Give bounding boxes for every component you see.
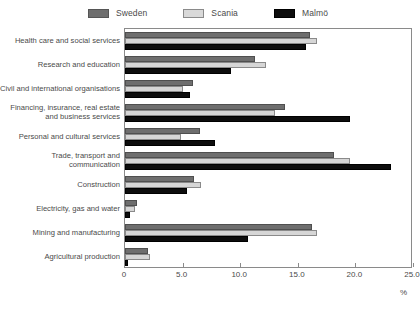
bar-malmo [125,116,350,122]
legend-label-sweden: Sweden [116,8,147,18]
bar-malmo [125,188,187,194]
bar-scania [125,230,317,236]
category-label: Mining and manufacturing [0,228,120,237]
bar-scania [125,62,266,68]
bar-scania [125,254,150,260]
bar-malmo [125,68,231,74]
legend-item-malmo: Malmö [274,8,328,18]
bar-malmo [125,44,306,50]
legend-label-malmo: Malmö [302,8,328,18]
bar-scania [125,206,135,212]
chart-legend: SwedenScaniaMalmö [0,4,416,22]
legend-swatch-sweden [88,9,109,18]
category-label: Civil and international organisations [0,84,120,93]
bar-group [125,101,411,125]
axis-tick-label: 20.0 [347,270,363,279]
axis-tick-label: 0 [122,270,126,279]
bar-scania [125,134,181,140]
axis-tick-label: 25.0 [404,270,420,279]
bar-sweden [125,104,285,110]
bar-scania [125,86,183,92]
bar-group [125,245,411,269]
bar-group [125,53,411,77]
legend-item-scania: Scania [183,8,238,18]
bar-sweden [125,152,334,158]
bar-group [125,173,411,197]
category-label: Health care and social services [0,36,120,45]
bar-group [125,149,411,173]
bar-scania [125,38,317,44]
category-label: Electricity, gas and water [0,204,120,213]
axis-tick-25 [413,263,414,267]
bar-malmo [125,92,190,98]
category-axis-labels: Health care and social servicesResearch … [0,28,120,268]
bar-group [125,77,411,101]
bar-sweden [125,224,312,230]
bar-malmo [125,140,215,146]
legend-label-scania: Scania [211,8,238,18]
bar-sweden [125,32,310,38]
category-label: Trade, transport and communication [0,151,120,169]
bar-malmo [125,260,128,266]
category-label: Agricultural production [0,252,120,261]
bar-malmo [125,236,248,242]
axis-unit-label: % [400,288,407,297]
axis-tick-label: 10.0 [231,270,247,279]
bar-malmo [125,212,130,218]
bar-sweden [125,200,137,206]
axis-tick-label: 15.0 [289,270,305,279]
category-label: Personal and cultural services [0,132,120,141]
value-axis: 05.010.015.020.025.0 [0,270,416,284]
bar-rows [125,29,411,267]
category-label: Research and education [0,60,120,69]
bar-scania [125,158,350,164]
category-label: Construction [0,180,120,189]
category-label: Financing, insurance, real estate and bu… [0,103,120,121]
legend-swatch-scania [183,9,204,18]
bar-group [125,221,411,245]
bar-sweden [125,80,193,86]
bar-scania [125,110,275,116]
legend-swatch-malmo [274,9,295,18]
bar-sweden [125,248,148,254]
legend-item-sweden: Sweden [88,8,147,18]
bar-group [125,197,411,221]
bar-sweden [125,128,200,134]
bar-scania [125,182,201,188]
bar-group [125,125,411,149]
bar-sweden [125,176,194,182]
bar-malmo [125,164,391,170]
bar-group [125,29,411,53]
plot-area [124,28,412,268]
axis-tick-label: 5.0 [176,270,187,279]
bar-sweden [125,56,255,62]
